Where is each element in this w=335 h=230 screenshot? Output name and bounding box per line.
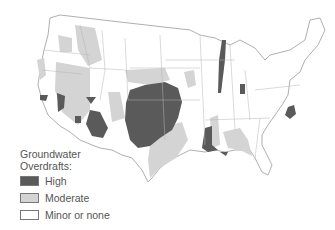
legend-title-line1: Groundwater <box>20 148 110 160</box>
legend-swatch-high <box>20 176 39 186</box>
legend-label-moderate: Moderate <box>45 192 89 204</box>
legend-label-high: High <box>45 175 67 187</box>
legend-item-moderate: Moderate <box>20 189 110 206</box>
legend-swatch-moderate <box>20 193 39 203</box>
legend-title-line2: Overdrafts: <box>20 160 110 172</box>
legend-item-minor: Minor or none <box>20 206 110 223</box>
legend-label-minor: Minor or none <box>45 209 110 221</box>
legend: Groundwater Overdrafts: High Moderate Mi… <box>20 148 110 223</box>
legend-item-high: High <box>20 172 110 189</box>
legend-swatch-minor <box>20 210 39 220</box>
